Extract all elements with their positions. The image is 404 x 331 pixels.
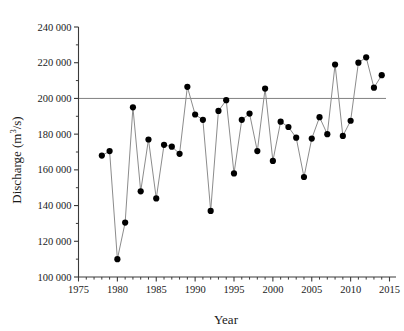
data-point — [200, 117, 206, 123]
data-point — [130, 104, 136, 110]
data-point — [153, 195, 159, 201]
x-tick-label: 2010 — [340, 284, 361, 295]
data-point — [223, 97, 229, 103]
y-tick-label: 180 000 — [37, 129, 71, 140]
data-point — [363, 54, 369, 60]
data-point — [254, 148, 260, 154]
chart-figure: 100 000120 000140 000160 000180 000200 0… — [0, 0, 404, 331]
data-point — [278, 119, 284, 125]
data-point — [107, 148, 113, 154]
data-point — [145, 136, 151, 142]
svg-text:Discharge (m3/s): Discharge (m3/s) — [8, 116, 24, 203]
data-point — [161, 142, 167, 148]
data-point — [371, 85, 377, 91]
data-point — [324, 131, 330, 137]
data-point — [293, 135, 299, 141]
x-tick-label: 1975 — [68, 284, 89, 295]
data-point — [231, 170, 237, 176]
data-point — [176, 151, 182, 157]
data-point — [270, 158, 276, 164]
data-point — [301, 174, 307, 180]
data-point — [122, 219, 128, 225]
data-point — [239, 117, 245, 123]
y-tick-label: 240 000 — [37, 22, 71, 33]
data-point — [316, 114, 322, 120]
y-axis-title-suffix: /s) — [9, 116, 24, 129]
data-point — [208, 208, 214, 214]
data-point — [379, 72, 385, 78]
data-point — [169, 144, 175, 150]
data-point — [355, 60, 361, 66]
data-point — [262, 86, 268, 92]
x-tick-label: 1990 — [185, 284, 206, 295]
x-axis-title: Year — [214, 312, 239, 327]
data-point — [332, 61, 338, 67]
data-point — [309, 136, 315, 142]
x-tick-label: 1980 — [107, 284, 128, 295]
discharge-time-series-chart: 100 000120 000140 000160 000180 000200 0… — [0, 0, 404, 331]
y-tick-label: 160 000 — [37, 164, 71, 175]
data-point — [138, 188, 144, 194]
y-tick-label: 100 000 — [37, 272, 71, 283]
y-axis-title: Discharge (m3/s) — [8, 116, 24, 203]
x-axis-ticks: 197519801985199019952000200520102015 — [68, 277, 400, 295]
y-tick-label: 220 000 — [37, 57, 71, 68]
x-tick-label: 2000 — [262, 284, 283, 295]
y-tick-label: 140 000 — [37, 200, 71, 211]
x-tick-label: 2005 — [301, 284, 322, 295]
x-tick-label: 1995 — [224, 284, 245, 295]
x-tick-label: 2015 — [379, 284, 400, 295]
data-point — [99, 152, 105, 158]
x-tick-label: 1985 — [146, 284, 167, 295]
y-tick-label: 200 000 — [37, 93, 71, 104]
data-point — [184, 84, 190, 90]
data-point — [348, 118, 354, 124]
data-point — [215, 108, 221, 114]
data-point — [114, 256, 120, 262]
data-point — [192, 111, 198, 117]
y-axis-title-prefix: Discharge (m — [9, 134, 24, 204]
y-tick-label: 120 000 — [37, 236, 71, 247]
data-point — [285, 124, 291, 130]
data-point — [246, 111, 252, 117]
data-point — [340, 133, 346, 139]
